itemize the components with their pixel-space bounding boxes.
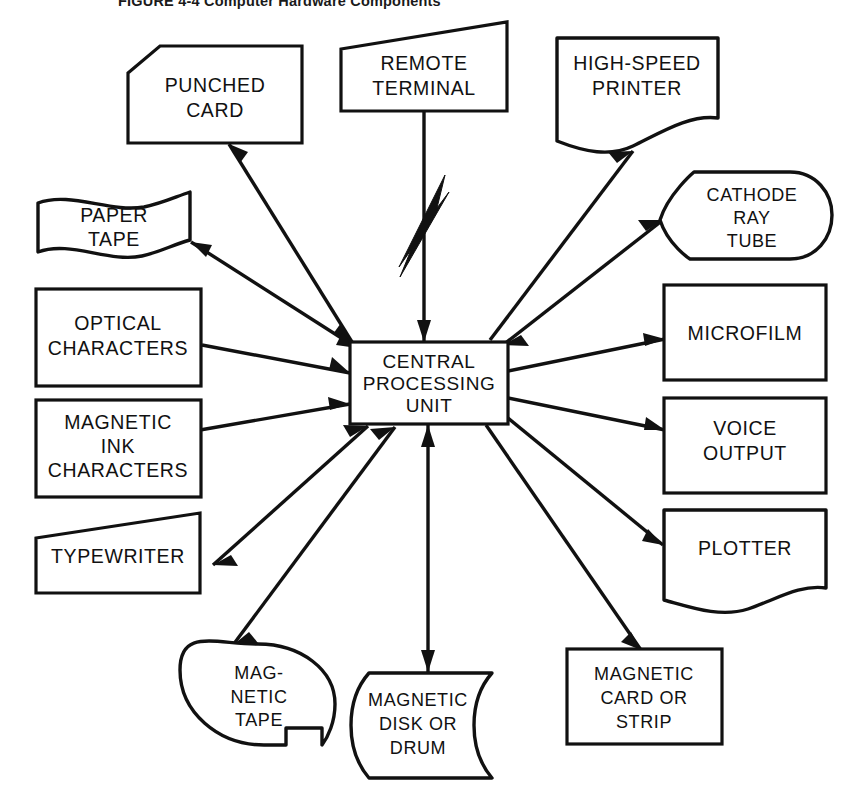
node-label-crt-line3: TUBE — [727, 231, 777, 251]
node-label-disk-line2: DISK OR — [379, 714, 457, 734]
node-remote-terminal[interactable]: REMOTE TERMINAL — [341, 22, 507, 111]
node-label-disk-line3: DRUM — [390, 738, 446, 758]
node-label-magnetic-tape-line3: TAPE — [235, 710, 283, 730]
connector-optical-characters — [202, 345, 350, 373]
node-label-card-line2: CARD OR — [600, 688, 687, 708]
node-label-crt-line1: CATHODE — [707, 185, 798, 205]
connector-voice-output — [508, 398, 665, 430]
node-cpu[interactable]: CENTRAL PROCESSING UNIT — [350, 342, 508, 424]
node-paper-tape[interactable]: PAPER TAPE — [38, 192, 190, 257]
connector-magnetic-card-or-strip — [486, 425, 641, 650]
connector-plotter — [508, 418, 663, 545]
connector-magnetic-tape — [233, 427, 395, 645]
node-high-speed-printer[interactable]: HIGH-SPEED PRINTER — [557, 38, 718, 152]
node-label-high-speed-printer-line1: HIGH-SPEED — [573, 52, 700, 74]
node-voice-output[interactable]: VOICE OUTPUT — [664, 398, 826, 493]
node-optical-characters[interactable]: OPTICAL CHARACTERS — [36, 289, 201, 386]
node-magnetic-ink-characters[interactable]: MAGNETIC INK CHARACTERS — [36, 400, 201, 497]
node-label-paper-tape-line1: PAPER — [80, 204, 148, 226]
connector-magnetic-disk-or-drum — [421, 425, 435, 672]
connector-remote-terminal — [399, 112, 449, 342]
node-label-card-line1: MAGNETIC — [594, 664, 694, 684]
node-label-microfilm: MICROFILM — [688, 322, 803, 344]
node-magnetic-tape[interactable]: MAG- NETIC TAPE — [180, 641, 335, 745]
connector-high-speed-printer — [490, 151, 633, 340]
node-label-high-speed-printer-line2: PRINTER — [592, 77, 682, 99]
connector-punched-card — [229, 144, 352, 342]
node-label-magnetic-ink-line2: INK — [101, 435, 135, 457]
node-label-paper-tape-line2: TAPE — [88, 228, 140, 250]
hardware-components-diagram: PUNCHED CARD REMOTE TERMINAL HIGH-SPEED … — [0, 0, 850, 805]
node-label-crt-line2: RAY — [733, 208, 770, 228]
connector-cathode-ray-tube — [503, 220, 663, 346]
node-label-cpu-line1: CENTRAL — [383, 351, 476, 372]
node-label-punched-card-line1: PUNCHED — [165, 74, 266, 96]
connector-magnetic-ink-characters — [200, 397, 350, 430]
node-label-magnetic-tape-line1: MAG- — [234, 663, 283, 683]
node-label-remote-terminal-line1: REMOTE — [380, 52, 467, 74]
node-label-punched-card-line2: CARD — [186, 99, 244, 121]
node-label-card-line3: STRIP — [616, 712, 672, 732]
node-typewriter[interactable]: TYPEWRITER — [36, 513, 200, 593]
node-plotter[interactable]: PLOTTER — [664, 510, 826, 612]
node-label-cpu-line2: PROCESSING — [363, 373, 496, 394]
node-label-optical-characters-line1: OPTICAL — [74, 312, 162, 334]
node-magnetic-card-or-strip[interactable]: MAGNETIC CARD OR STRIP — [567, 649, 722, 744]
node-label-magnetic-tape-line2: NETIC — [231, 687, 288, 707]
node-label-remote-terminal-line2: TERMINAL — [372, 77, 475, 99]
node-punched-card[interactable]: PUNCHED CARD — [128, 46, 302, 143]
node-label-magnetic-ink-line1: MAGNETIC — [64, 411, 172, 433]
node-label-optical-characters-line2: CHARACTERS — [48, 337, 188, 359]
connector-paper-tape — [191, 242, 357, 348]
node-microfilm[interactable]: MICROFILM — [664, 285, 826, 380]
node-label-voice-output-line1: VOICE — [713, 417, 777, 439]
node-label-plotter: PLOTTER — [698, 537, 792, 559]
node-cathode-ray-tube[interactable]: CATHODE RAY TUBE — [660, 172, 832, 259]
connector-microfilm — [508, 333, 665, 371]
node-label-magnetic-ink-line3: CHARACTERS — [48, 459, 188, 481]
node-label-disk-line1: MAGNETIC — [368, 690, 468, 710]
node-label-cpu-line3: UNIT — [406, 395, 453, 416]
node-label-typewriter: TYPEWRITER — [51, 545, 185, 567]
node-label-voice-output-line2: OUTPUT — [703, 442, 787, 464]
node-magnetic-disk-or-drum[interactable]: MAGNETIC DISK OR DRUM — [351, 673, 492, 778]
